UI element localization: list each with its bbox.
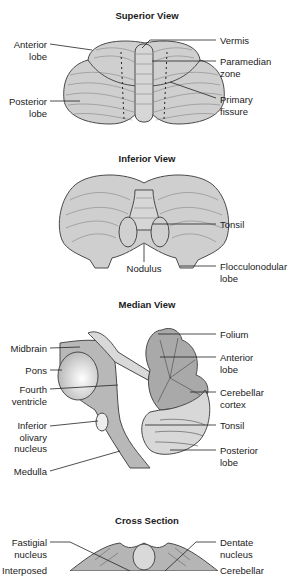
label-tonsil-inferior: Tonsil — [220, 219, 244, 231]
label-paramedian-zone: Paramedian zone — [220, 56, 271, 79]
label-cerebellar-partial: Cerebellar — [220, 565, 264, 577]
label-primary-fissure: Primary fissure — [220, 94, 253, 117]
label-anterior-lobe-median: Anterior lobe — [220, 352, 253, 375]
label-fastigial-nucleus: Fastigial nucleus — [0, 537, 47, 560]
label-folium: Folium — [220, 329, 249, 341]
label-dentate-nucleus: Dentate nucleus — [220, 537, 253, 560]
label-posterior-lobe-median: Posterior lobe — [220, 445, 258, 468]
label-midbrain: Midbrain — [0, 343, 47, 355]
cross-section-title: Cross Section — [0, 515, 294, 526]
label-anterior-lobe: Anterior lobe — [0, 39, 47, 62]
superior-view-figure — [64, 41, 225, 124]
median-view-figure — [58, 328, 210, 468]
label-vermis: Vermis — [220, 35, 249, 47]
label-posterior-lobe: Posterior lobe — [0, 96, 47, 119]
inferior-view-title: Inferior View — [0, 153, 294, 164]
label-nodulus: Nodulus — [114, 263, 174, 275]
label-tonsil-median: Tonsil — [220, 420, 244, 432]
median-view-title: Median View — [0, 299, 294, 310]
cross-section-figure — [70, 543, 218, 571]
label-pons: Pons — [0, 365, 47, 377]
label-flocculonodular-lobe: Flocculonodular lobe — [220, 261, 287, 284]
label-cerebellar-cortex: Cerebellar cortex — [220, 387, 264, 410]
label-fourth-ventricle: Fourth ventricle — [0, 384, 47, 407]
label-inferior-olivary-nucleus: Inferior olivary nucleus — [0, 420, 47, 455]
label-interposed: Interposed — [0, 565, 47, 577]
label-medulla: Medulla — [0, 466, 47, 478]
